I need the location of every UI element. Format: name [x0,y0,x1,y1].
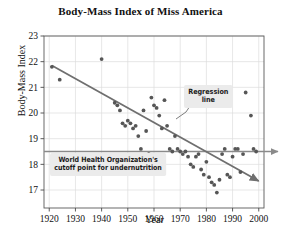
who-annotation-line-2: cutoff point for undernutrition [52,164,165,172]
y-tick-label: 20 [29,108,39,118]
data-point [100,57,104,61]
data-point [218,178,222,182]
data-point [173,134,177,138]
data-point [50,65,54,69]
data-point [191,165,195,169]
data-point [220,152,224,156]
data-point [241,152,245,156]
data-point [129,121,133,125]
data-point [186,155,190,159]
y-tick-label: 17 [29,185,39,195]
data-point [184,150,188,154]
data-point [58,78,62,82]
data-point [202,173,206,177]
data-point [239,170,243,174]
regression-line-annotation: Regression line [184,85,233,108]
data-point [160,127,164,131]
data-point [155,106,159,110]
data-point [228,175,232,179]
data-point [207,175,211,179]
y-tick-label: 23 [29,31,39,41]
data-point [244,91,248,95]
data-point [136,134,140,138]
data-point [165,124,169,128]
data-point [118,109,122,113]
data-point [149,96,153,100]
y-axis: 17181920212223 [29,31,45,195]
data-point [134,124,138,128]
y-axis-label: Body-Mass Index [16,31,27,131]
data-point [215,191,219,195]
data-point [236,147,240,151]
y-tick-label: 18 [29,160,39,170]
who-cutoff-annotation: World Health Organization's cutoff point… [50,153,166,176]
x-axis-label: Year [44,214,265,225]
data-point [144,129,148,133]
data-point [163,98,167,102]
data-point [254,150,258,154]
data-point [157,114,161,118]
data-point [197,152,201,156]
scatter-plot: 17181920212223 1920193019401950196019701… [0,0,281,234]
y-tick-label: 22 [29,57,39,67]
data-point [139,147,143,151]
y-tick-label: 21 [29,83,39,93]
data-point [199,168,203,172]
data-point [249,114,253,118]
data-point [123,124,127,128]
chart-figure: Body-Mass Index of Miss America 17181920… [0,0,281,234]
data-point [223,147,227,151]
regression-annotation-line-2: line [186,96,231,104]
data-point [170,150,174,154]
data-point [204,160,208,164]
y-tick-label: 19 [29,134,39,144]
data-point [115,103,119,107]
data-point [212,183,216,187]
data-point [142,109,146,113]
data-point [231,155,235,159]
